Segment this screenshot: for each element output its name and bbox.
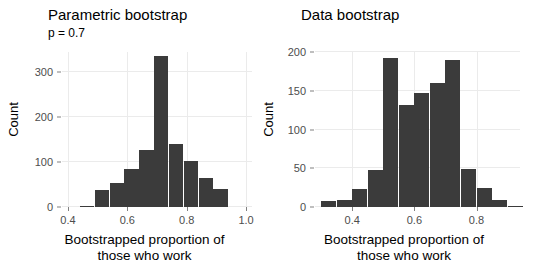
histogram-bar <box>399 105 414 207</box>
y-tick-label: 0 <box>300 201 306 213</box>
y-tick-mark <box>57 162 61 163</box>
x-tick-label: 0.6 <box>120 214 135 226</box>
x-tick-mark <box>68 207 69 211</box>
histogram-bar <box>213 189 227 207</box>
histogram-bar <box>461 169 476 207</box>
histogram-bar <box>352 189 367 207</box>
y-tick-label: 100 <box>35 156 53 168</box>
x-tick-label: 0.6 <box>407 214 422 226</box>
y-tick-label: 150 <box>288 85 306 97</box>
gridline-vertical <box>477 52 478 207</box>
y-tick-label: 0 <box>47 201 53 213</box>
x-tick-mark <box>477 207 478 211</box>
plot-area: 01002003000.40.60.81.0 <box>62 52 252 207</box>
y-tick-mark <box>57 207 61 208</box>
histogram-bar <box>368 170 383 207</box>
y-tick-mark <box>57 72 61 73</box>
gridline-horizontal <box>315 51 520 52</box>
gridline-vertical <box>352 52 353 207</box>
gridline-vertical <box>246 52 247 207</box>
x-tick-mark <box>187 207 188 211</box>
y-tick-mark <box>310 168 314 169</box>
x-tick-label: 0.4 <box>60 214 75 226</box>
y-tick-mark <box>310 90 314 91</box>
panel-data-bootstrap: Data bootstrap Count 0501001502000.40.60… <box>273 0 547 274</box>
plot-area: 0501001502000.40.60.8 <box>315 52 520 207</box>
histogram-bar <box>445 60 460 207</box>
x-axis-label-line1: Bootstrapped proportion of <box>65 232 225 247</box>
histogram-bar <box>124 169 138 207</box>
y-tick-label: 200 <box>288 46 306 58</box>
figure-bootstrap-histograms: Parametric bootstrap p = 0.7 Count 01002… <box>0 0 547 274</box>
histogram-bar <box>492 200 507 207</box>
histogram-bar <box>414 93 429 207</box>
y-axis-label: Count <box>6 102 21 137</box>
y-tick-label: 200 <box>35 111 53 123</box>
y-axis-label: Count <box>261 102 276 137</box>
panel-subtitle: p = 0.7 <box>48 26 85 40</box>
x-axis-label-line2: those who work <box>267 248 541 264</box>
x-axis-label-line1: Bootstrapped proportion of <box>324 232 484 247</box>
panel-parametric-bootstrap: Parametric bootstrap p = 0.7 Count 01002… <box>0 0 273 274</box>
histogram-bar <box>169 144 183 207</box>
histogram-bar <box>199 178 213 207</box>
y-tick-label: 50 <box>294 162 306 174</box>
x-tick-label: 0.8 <box>469 214 484 226</box>
y-tick-mark <box>57 117 61 118</box>
histogram-bar <box>337 200 352 207</box>
histogram-bar <box>508 206 523 207</box>
y-tick-label: 100 <box>288 124 306 136</box>
x-tick-mark <box>127 207 128 211</box>
histogram-bar <box>139 150 153 207</box>
histogram-bar <box>321 201 336 207</box>
y-tick-label: 300 <box>35 66 53 78</box>
histogram-bar <box>430 83 445 207</box>
gridline-horizontal <box>315 90 520 91</box>
x-tick-mark <box>352 207 353 211</box>
y-tick-mark <box>310 207 314 208</box>
x-tick-mark <box>246 207 247 211</box>
x-tick-label: 1.0 <box>238 214 253 226</box>
histogram-bar <box>95 190 109 207</box>
histogram-bar <box>80 206 94 207</box>
x-axis-label: Bootstrapped proportion of those who wor… <box>267 232 541 264</box>
x-tick-label: 0.4 <box>345 214 360 226</box>
histogram-bar <box>477 188 492 207</box>
y-tick-mark <box>310 129 314 130</box>
gridline-vertical <box>68 52 69 207</box>
panel-title: Data bootstrap <box>273 6 547 23</box>
x-tick-label: 0.8 <box>179 214 194 226</box>
x-axis-label-line2: those who work <box>8 248 281 264</box>
histogram-bar <box>154 56 168 207</box>
x-tick-mark <box>414 207 415 211</box>
x-axis-label: Bootstrapped proportion of those who wor… <box>8 232 281 264</box>
y-tick-mark <box>310 52 314 53</box>
histogram-bar <box>110 183 124 207</box>
histogram-bar <box>383 58 398 207</box>
histogram-bar <box>184 161 198 207</box>
